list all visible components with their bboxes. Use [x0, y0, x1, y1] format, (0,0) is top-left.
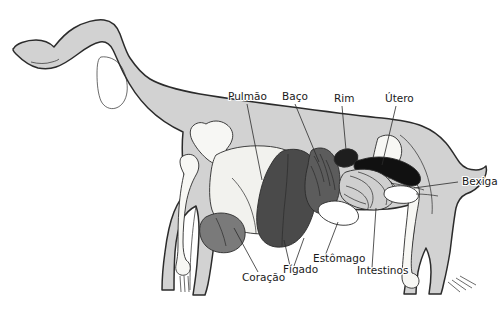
leader-estomago — [325, 222, 338, 256]
organ-bladder — [384, 186, 418, 204]
rear-paw-toes — [448, 276, 476, 292]
label-baco: Baço — [282, 90, 308, 102]
leader-intestinos — [372, 208, 376, 268]
label-bexiga: Bexiga — [462, 175, 498, 187]
label-estomago: Estômago — [313, 252, 365, 264]
humerus-bone — [176, 154, 199, 275]
label-utero: Útero — [385, 92, 414, 104]
label-figado: Fígado — [283, 263, 318, 275]
label-coracao: Coração — [242, 271, 285, 283]
dog-anatomy-figure: Pulmão Baço Rim Útero Bexiga Coração Fíg… — [0, 0, 500, 315]
label-intestinos: Intestinos — [357, 264, 408, 276]
label-pulmao: Pulmão — [228, 90, 267, 102]
leader-coracao — [234, 228, 258, 272]
front-paw-toes — [180, 276, 189, 292]
anatomy-illustration: Pulmão Baço Rim Útero Bexiga Coração Fíg… — [0, 0, 500, 315]
label-rim: Rim — [334, 92, 354, 104]
